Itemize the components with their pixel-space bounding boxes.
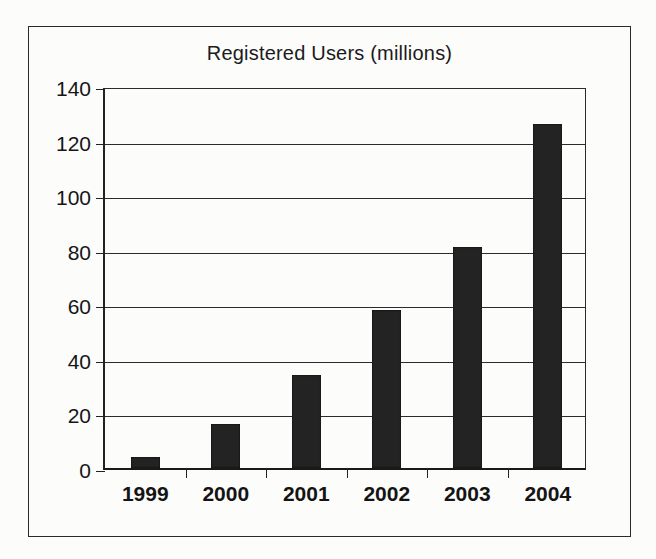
gridline — [105, 253, 585, 254]
y-axis-tick — [96, 253, 105, 254]
x-axis-label: 2002 — [363, 482, 410, 506]
y-axis-tick — [96, 89, 105, 90]
y-axis-label: 120 — [56, 132, 91, 156]
x-axis-label: 2001 — [283, 482, 330, 506]
figure-canvas: Registered Users (millions) 020406080100… — [0, 0, 656, 559]
chart-title: Registered Users (millions) — [28, 42, 631, 65]
x-axis-label: 2003 — [444, 482, 491, 506]
x-axis-tick — [186, 468, 187, 478]
y-axis-tick — [96, 144, 105, 145]
x-axis-label: 1999 — [122, 482, 169, 506]
x-axis-tick — [266, 468, 267, 478]
gridline — [105, 307, 585, 308]
y-axis-tick — [96, 362, 105, 363]
y-axis-label: 80 — [68, 241, 91, 265]
bar — [131, 457, 160, 468]
y-axis-label: 0 — [79, 459, 91, 483]
bar — [533, 124, 562, 468]
y-axis-label: 40 — [68, 350, 91, 374]
gridline — [105, 198, 585, 199]
bar — [211, 424, 240, 468]
y-axis-tick — [96, 307, 105, 308]
gridline — [105, 362, 585, 363]
plot-area: 020406080100120140 199920002001200220032… — [103, 88, 586, 470]
bar — [372, 310, 401, 468]
y-axis-tick — [96, 471, 105, 472]
y-axis-label: 20 — [68, 404, 91, 428]
bar — [453, 247, 482, 468]
bar — [292, 375, 321, 468]
x-axis-label: 2004 — [524, 482, 571, 506]
y-axis-label: 60 — [68, 295, 91, 319]
gridline — [105, 144, 585, 145]
x-axis-tick — [508, 468, 509, 478]
x-axis-tick — [427, 468, 428, 478]
y-axis-tick — [96, 416, 105, 417]
y-axis-tick — [96, 198, 105, 199]
gridline — [105, 416, 585, 417]
y-axis-label: 100 — [56, 186, 91, 210]
x-axis-tick — [347, 468, 348, 478]
x-axis-label: 2000 — [202, 482, 249, 506]
y-axis-label: 140 — [56, 77, 91, 101]
